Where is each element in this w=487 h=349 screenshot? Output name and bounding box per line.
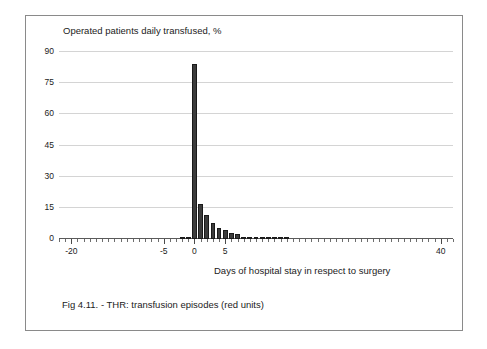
x-tick xyxy=(108,239,109,242)
x-tick xyxy=(201,239,202,242)
x-tick xyxy=(164,239,165,244)
x-tick-label: 40 xyxy=(436,246,445,256)
chart-title: Operated patients daily transfused, % xyxy=(63,25,221,36)
x-tick xyxy=(176,239,177,242)
x-tick xyxy=(133,239,134,242)
x-tick xyxy=(231,239,232,242)
x-tick xyxy=(207,239,208,242)
y-tick-label: 60 xyxy=(45,108,54,118)
x-tick xyxy=(268,239,269,242)
x-tick xyxy=(428,239,429,242)
bar xyxy=(223,230,228,239)
x-tick xyxy=(213,239,214,242)
x-tick xyxy=(139,239,140,242)
x-tick-label: 0 xyxy=(192,246,197,256)
x-tick xyxy=(293,239,294,242)
bar-series xyxy=(59,52,453,239)
x-tick-label: 5 xyxy=(223,246,228,256)
x-tick xyxy=(219,239,220,242)
bar xyxy=(204,215,209,239)
y-tick-label: 75 xyxy=(45,77,54,87)
bar xyxy=(211,223,216,239)
x-tick xyxy=(59,239,60,242)
y-tick-label: 15 xyxy=(45,202,54,212)
x-tick xyxy=(225,239,226,244)
y-tick-label: 0 xyxy=(49,233,54,243)
x-tick xyxy=(151,239,152,242)
y-tick-label: 30 xyxy=(45,171,54,181)
x-tick xyxy=(447,239,448,242)
bar xyxy=(217,228,222,239)
x-tick xyxy=(422,239,423,242)
x-tick xyxy=(410,239,411,242)
x-tick xyxy=(188,239,189,242)
x-tick xyxy=(127,239,128,242)
x-tick xyxy=(355,239,356,242)
figure-caption: Fig 4.11. - THR: transfusion episodes (r… xyxy=(62,299,264,310)
x-tick xyxy=(158,239,159,242)
x-tick xyxy=(102,239,103,242)
x-axis: -20-50540 xyxy=(59,239,453,265)
x-tick xyxy=(441,239,442,244)
y-tick-label: 45 xyxy=(45,140,54,150)
x-tick xyxy=(373,239,374,242)
x-tick xyxy=(435,239,436,242)
x-axis-label: Days of hospital stay in respect to surg… xyxy=(214,265,390,276)
x-tick xyxy=(238,239,239,242)
x-tick xyxy=(145,239,146,242)
x-tick xyxy=(65,239,66,242)
x-tick xyxy=(71,239,72,244)
x-tick xyxy=(367,239,368,242)
x-tick-label: -20 xyxy=(65,246,77,256)
plot-area: 0153045607590 -20-50540 xyxy=(59,52,453,239)
x-tick xyxy=(348,239,349,242)
x-tick xyxy=(385,239,386,242)
x-tick xyxy=(250,239,251,242)
x-tick xyxy=(398,239,399,242)
x-tick xyxy=(262,239,263,242)
x-tick xyxy=(77,239,78,242)
x-tick xyxy=(182,239,183,242)
x-tick xyxy=(256,239,257,242)
x-tick xyxy=(453,239,454,242)
x-tick xyxy=(244,239,245,242)
x-tick xyxy=(379,239,380,242)
x-tick xyxy=(342,239,343,242)
x-tick xyxy=(311,239,312,242)
x-tick xyxy=(305,239,306,242)
x-tick-label: -5 xyxy=(160,246,168,256)
x-tick xyxy=(96,239,97,242)
x-tick xyxy=(391,239,392,242)
bar xyxy=(198,204,203,239)
x-tick xyxy=(324,239,325,242)
x-tick xyxy=(114,239,115,242)
x-tick xyxy=(194,239,195,244)
x-tick xyxy=(287,239,288,242)
x-tick xyxy=(404,239,405,242)
x-tick xyxy=(330,239,331,242)
x-tick xyxy=(84,239,85,242)
x-tick xyxy=(121,239,122,242)
figure-frame: Operated patients daily transfused, % 01… xyxy=(25,15,463,331)
x-tick xyxy=(274,239,275,242)
x-tick xyxy=(170,239,171,242)
y-tick-label: 90 xyxy=(45,46,54,56)
x-tick xyxy=(299,239,300,242)
x-tick xyxy=(281,239,282,242)
x-tick xyxy=(90,239,91,242)
x-tick xyxy=(416,239,417,242)
x-tick xyxy=(318,239,319,242)
x-tick xyxy=(361,239,362,242)
bar xyxy=(192,64,197,239)
x-tick xyxy=(336,239,337,242)
